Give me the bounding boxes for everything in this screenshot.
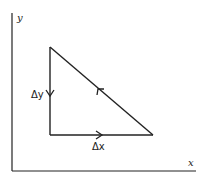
y-axis-label: y xyxy=(16,12,23,23)
delta-y-label: Δy xyxy=(31,89,44,100)
delta-x-label: Δx xyxy=(92,141,105,152)
x-axis-label: x xyxy=(188,157,194,168)
hypotenuse-edge xyxy=(50,47,153,135)
triangle-diagram: y x Δy Δx xyxy=(0,0,202,181)
